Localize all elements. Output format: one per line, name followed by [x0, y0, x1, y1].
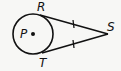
center-point-p — [31, 32, 35, 36]
tick-mark-sr — [73, 20, 74, 28]
label-t: T — [39, 56, 48, 70]
tick-mark-st — [73, 40, 74, 48]
label-r: R — [37, 0, 45, 14]
tangent-diagram: P R T S — [0, 0, 121, 71]
tangent-segment-st — [42, 34, 108, 53]
label-s: S — [107, 20, 115, 34]
label-p: P — [20, 27, 28, 41]
